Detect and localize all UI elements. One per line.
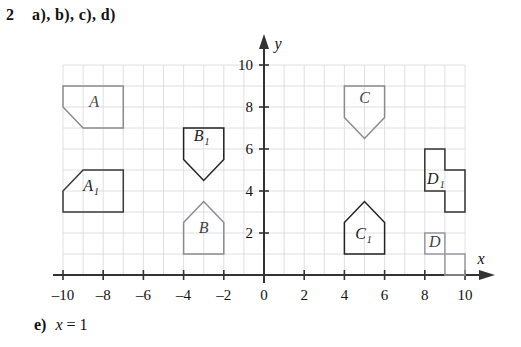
- label-subscript: 1: [440, 179, 445, 190]
- answer-number: 1: [80, 316, 88, 333]
- x-axis-arrowhead: [479, 270, 495, 280]
- label-letter: C: [359, 89, 370, 106]
- label-B: B: [199, 219, 209, 236]
- label-letter: B: [199, 219, 209, 236]
- x-tick-label: –4: [175, 287, 192, 303]
- label-subscript: 1: [367, 234, 372, 245]
- x-tick-label: –8: [95, 287, 111, 303]
- x-axis-name: x: [476, 250, 484, 267]
- answer-variable: x: [55, 316, 62, 333]
- axis-tick-labels: –10–8–6–4–20246810246810: [51, 57, 473, 303]
- label-letter: C: [355, 225, 366, 242]
- label-D: D: [428, 233, 441, 250]
- answer-value-e: x = 1: [55, 316, 87, 333]
- worksheet-page: 2 a), b), c), d) –10–8–6–4–2024681024681…: [0, 0, 521, 347]
- label-letter: A: [88, 93, 99, 110]
- label-A: A: [88, 93, 99, 110]
- y-tick-label: 6: [246, 141, 254, 157]
- label-letter: D: [426, 170, 439, 187]
- x-tick-label: –2: [215, 287, 231, 303]
- y-tick-label: 2: [246, 225, 254, 241]
- exercise-parts-label: a), b), c), d): [32, 4, 116, 26]
- answer-line-e: e)x = 1: [34, 314, 88, 336]
- x-tick-label: 0: [260, 287, 268, 303]
- answer-equals-sign: =: [63, 316, 80, 333]
- x-tick-label: 10: [458, 287, 473, 303]
- exercise-number: 2: [6, 4, 14, 26]
- x-tick-label: –6: [135, 287, 152, 303]
- y-tick-label: 8: [246, 99, 254, 115]
- y-tick-label: 10: [238, 57, 253, 73]
- label-subscript: 1: [205, 136, 210, 147]
- y-axis-name: y: [272, 35, 282, 53]
- label-letter: D: [428, 233, 441, 250]
- x-tick-label: 2: [300, 287, 308, 303]
- x-tick-label: –10: [51, 287, 75, 303]
- coordinate-grid-svg: –10–8–6–4–20246810246810 AA1BB1CC1DD1 xy: [0, 26, 521, 311]
- label-D1: D1: [426, 170, 445, 190]
- label-C1: C1: [355, 225, 372, 245]
- label-B1: B1: [194, 127, 210, 147]
- answer-label-e: e): [34, 316, 46, 333]
- coordinate-plot: –10–8–6–4–20246810246810 AA1BB1CC1DD1 xy: [0, 26, 521, 311]
- y-axis-arrowhead: [259, 34, 269, 49]
- y-tick-label: 4: [246, 183, 254, 199]
- x-tick-label: 6: [381, 287, 389, 303]
- label-letter: B: [194, 127, 204, 144]
- label-letter: A: [82, 177, 93, 194]
- x-tick-label: 8: [421, 287, 429, 303]
- label-A1: A1: [82, 177, 99, 197]
- label-subscript: 1: [94, 186, 99, 197]
- label-C: C: [359, 89, 370, 106]
- x-tick-label: 4: [341, 287, 349, 303]
